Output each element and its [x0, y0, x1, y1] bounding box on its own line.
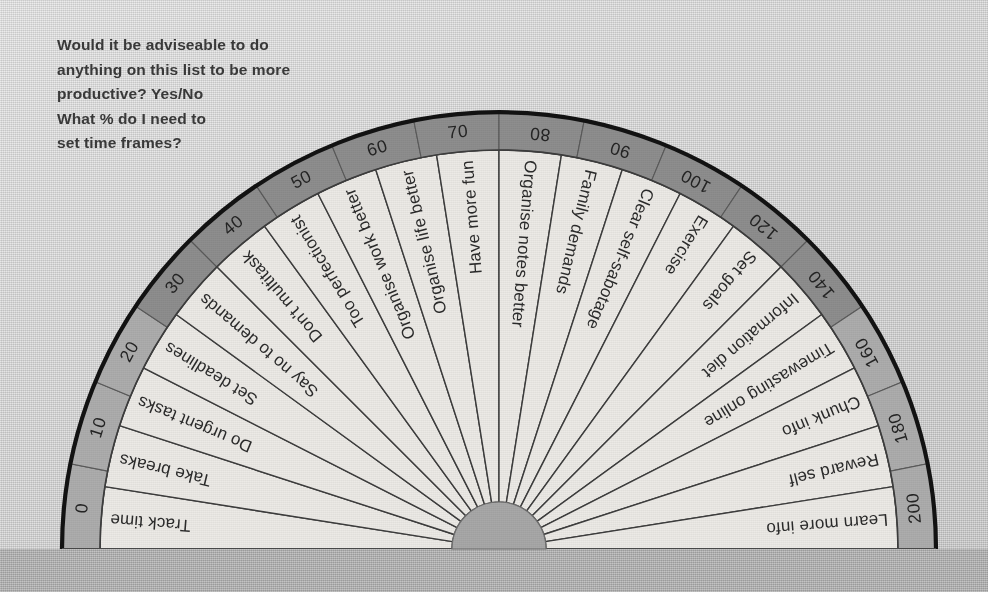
scale-tick-label: 70 [447, 121, 470, 143]
scale-tick-label: 80 [529, 123, 552, 145]
scale-tick-label: 0 [71, 502, 92, 514]
scale-tick-label: 200 [902, 492, 925, 525]
screenshot-page: Would it be adviseable to do anything on… [0, 0, 988, 592]
header-question-note: Would it be adviseable to do anything on… [57, 33, 387, 156]
fan-sector-group [100, 150, 898, 549]
